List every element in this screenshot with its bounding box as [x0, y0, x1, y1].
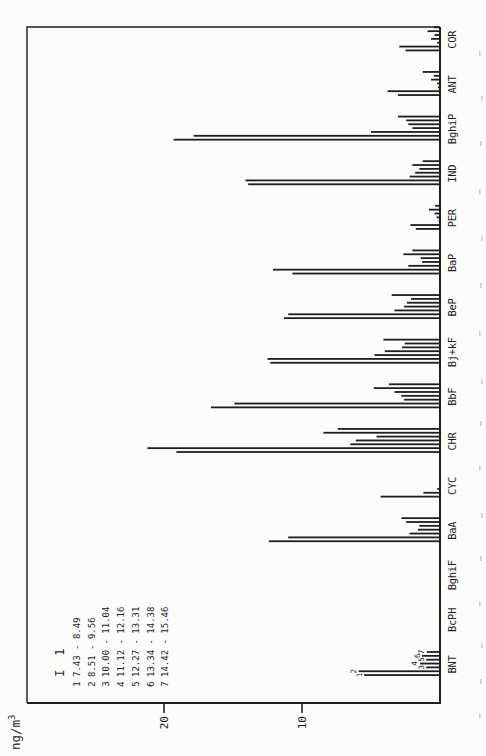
- legend-entry-num-2: 2: [86, 681, 97, 687]
- bar-BghiP-6: [406, 120, 440, 122]
- scan-artifact: [481, 379, 483, 384]
- bar-CYC-3: [437, 488, 440, 490]
- bar-BeP-2: [288, 313, 440, 315]
- bar-CHR-7: [338, 428, 440, 430]
- bar-number-label-7: 7: [417, 650, 426, 655]
- bar-CYC-1: [381, 496, 440, 498]
- scan-artifact: [479, 189, 481, 194]
- legend-entry-num-1: 1: [71, 681, 82, 687]
- bar-Bj+kF-4: [385, 350, 440, 352]
- scan-artifact: [481, 96, 483, 101]
- bar-ANT-6: [434, 75, 440, 77]
- bar-CYC-2: [423, 492, 440, 494]
- bar-IND-1: [248, 183, 440, 185]
- bar-BaA-2: [288, 536, 440, 538]
- bar-CHR-3: [350, 443, 440, 445]
- scan-artifact: [481, 236, 483, 241]
- bar-BNT-4: [420, 663, 440, 665]
- bar-CHR-1: [176, 451, 440, 453]
- scan-artifact: [481, 643, 483, 648]
- pah-bar-chart: 1020ng/m3I 11 7.43 - 8.492 8.51 - 9.5631…: [0, 0, 486, 756]
- bar-BaP-5: [421, 257, 440, 259]
- bar-BghiP-3: [371, 131, 440, 133]
- legend-entry-num-4: 4: [115, 681, 126, 687]
- bar-COR-1: [406, 50, 441, 52]
- bar-CHR-5: [377, 436, 440, 438]
- bar-number-label-2: 2: [349, 669, 358, 674]
- bar-BaA-7: [401, 517, 440, 519]
- bar-number-label-3: 3: [417, 665, 426, 670]
- bar-ANT-7: [423, 71, 440, 73]
- bar-IND-4: [415, 172, 440, 174]
- x-axis-label-BaA: BaA: [446, 521, 458, 540]
- x-axis-label-BbF: BbF: [446, 388, 458, 406]
- scan-artifact: [479, 51, 481, 56]
- legend-entry-num-5: 5: [130, 681, 141, 687]
- bar-Bj+kF-1: [270, 362, 440, 364]
- bar-CHR-2: [147, 447, 440, 449]
- bar-COR-2: [399, 46, 440, 48]
- bar-COR-5: [434, 34, 440, 36]
- bar-BbF-6: [374, 387, 440, 389]
- bar-BeP-7: [392, 294, 440, 296]
- x-axis-label-Bj+kF: Bj+kF: [446, 337, 458, 367]
- bar-BghiP-7: [398, 116, 440, 118]
- bar-PER-4: [437, 216, 440, 218]
- scan-artifact: [480, 421, 482, 426]
- bar-BaP-7: [412, 250, 440, 252]
- bar-BeP-5: [407, 302, 440, 304]
- bar-BbF-2: [234, 403, 440, 405]
- bar-BbF-5: [394, 391, 440, 393]
- bar-BghiP-4: [412, 127, 440, 129]
- legend-entry-num-7: 7: [159, 681, 170, 687]
- bar-BNT-5: [426, 659, 440, 661]
- bar-Bj+kF-7: [383, 339, 440, 341]
- legend-entry-range-2: 8.51 - 9.56: [87, 617, 97, 677]
- bar-Bj+kF-3: [374, 354, 440, 356]
- scanned-figure-page: 1020ng/m3I 11 7.43 - 8.492 8.51 - 9.5631…: [0, 0, 486, 756]
- scan-artifact: [479, 466, 481, 471]
- bar-BaP-2: [273, 269, 440, 271]
- x-axis-label-CHR: CHR: [446, 431, 458, 450]
- bar-BaP-1: [292, 273, 440, 275]
- bar-BeP-4: [404, 306, 440, 308]
- bar-BNT-6: [422, 655, 440, 657]
- scan-artifact: [480, 679, 482, 684]
- bar-BbF-1: [211, 406, 440, 408]
- plot-frame: [27, 27, 440, 703]
- scan-artifact: [481, 513, 483, 518]
- bar-PER-3: [439, 220, 440, 222]
- bar-IND-5: [419, 168, 440, 170]
- bar-BaP-3: [408, 265, 440, 267]
- legend-entry-range-4: 11.12 - 12.16: [116, 607, 126, 677]
- bar-IND-2: [245, 180, 440, 182]
- scan-artifact: [480, 141, 482, 146]
- bar-BaA-6: [406, 521, 440, 523]
- x-axis-label-BeP: BeP: [446, 299, 458, 317]
- bar-BNT-3: [426, 667, 440, 669]
- legend-entry-range-6: 13.34 - 14.38: [146, 607, 156, 677]
- bar-BbF-3: [404, 399, 440, 401]
- bar-BghiP-1: [174, 139, 440, 141]
- bar-PER-1: [416, 228, 440, 230]
- y-axis-unit-label: ng/m3: [7, 714, 23, 750]
- bar-PER-2: [410, 224, 440, 226]
- x-axis-label-COR: COR: [446, 30, 458, 49]
- bar-Bj+kF-6: [405, 343, 440, 345]
- bar-PER-5: [434, 213, 440, 215]
- bar-CHR-6: [323, 432, 440, 434]
- bar-BNT-1: [364, 674, 440, 676]
- bar-Bj+kF-5: [402, 346, 440, 348]
- bar-PER-6: [429, 209, 440, 211]
- bar-COR-3: [437, 42, 440, 44]
- rotated-figure-canvas: 1020ng/m3I 11 7.43 - 8.492 8.51 - 9.5631…: [0, 0, 486, 756]
- bar-CHR-4: [356, 440, 440, 442]
- bar-IND-7: [423, 160, 440, 162]
- x-axis-label-BcPH: BcPH: [446, 608, 458, 632]
- bar-ANT-4: [437, 83, 440, 85]
- legend-entry-num-3: 3: [100, 681, 111, 687]
- bar-BghiP-2: [194, 135, 440, 137]
- bar-COR-7: [434, 26, 440, 28]
- bar-COR-6: [428, 30, 440, 32]
- legend-entry-range-7: 14.42 - 15.46: [160, 607, 170, 677]
